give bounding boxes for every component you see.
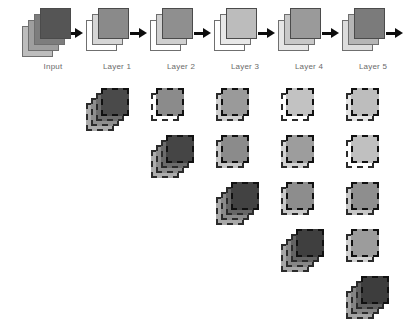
flow-node-layer5: Layer 5 bbox=[342, 8, 404, 80]
flow-node-label-layer5: Layer 5 bbox=[342, 62, 404, 71]
feature-map-card-front bbox=[361, 276, 389, 304]
feature-map-stack-c5-r4 bbox=[346, 229, 392, 275]
feature-map-stack-c4-r1 bbox=[281, 88, 327, 134]
flow-node-layer4: Layer 4 bbox=[278, 8, 340, 80]
flow-arrow-6 bbox=[386, 28, 403, 39]
arrow-head-icon bbox=[75, 28, 83, 38]
feature-map-stack-c2-r2 bbox=[151, 135, 197, 181]
feature-map-stack-c2-r1 bbox=[151, 88, 197, 134]
feature-map-stack-c5-r5 bbox=[346, 276, 392, 322]
feature-map-stack-c3-r1 bbox=[216, 88, 262, 134]
flow-node-label-layer4: Layer 4 bbox=[278, 62, 340, 71]
arrow-head-icon bbox=[267, 28, 275, 38]
layer-card-front bbox=[354, 8, 385, 39]
feature-map-card-front bbox=[286, 135, 314, 163]
network-layer-diagram: InputLayer 1Layer 2Layer 3Layer 4Layer 5 bbox=[0, 0, 412, 327]
feature-map-card-front bbox=[231, 182, 259, 210]
flow-node-label-layer2: Layer 2 bbox=[150, 62, 212, 71]
flow-node-input: Input bbox=[22, 8, 84, 80]
feature-map-stack-c5-r2 bbox=[346, 135, 392, 181]
feature-map-stack-c3-r3 bbox=[216, 182, 262, 228]
feature-map-stack-c5-r1 bbox=[346, 88, 392, 134]
arrow-head-icon bbox=[139, 28, 147, 38]
feature-map-stack-c4-r2 bbox=[281, 135, 327, 181]
flow-node-layer2: Layer 2 bbox=[150, 8, 212, 80]
flow-arrow-2 bbox=[130, 28, 147, 39]
feature-map-card-front bbox=[351, 88, 379, 116]
arrow-head-icon bbox=[203, 28, 211, 38]
layer-card-front bbox=[226, 8, 257, 39]
flow-node-label-input: Input bbox=[22, 62, 84, 71]
feature-map-card-front bbox=[286, 88, 314, 116]
flow-arrow-4 bbox=[258, 28, 275, 39]
feature-map-card-front bbox=[221, 88, 249, 116]
feature-map-card-front bbox=[296, 229, 324, 257]
flow-arrow-3 bbox=[194, 28, 211, 39]
feature-map-stack-c3-r2 bbox=[216, 135, 262, 181]
flow-arrow-5 bbox=[322, 28, 339, 39]
flow-node-label-layer1: Layer 1 bbox=[86, 62, 148, 71]
layer-card-front bbox=[40, 8, 71, 39]
feature-map-card-front bbox=[156, 88, 184, 116]
flow-node-layer1: Layer 1 bbox=[86, 8, 148, 80]
feature-map-stack-c1-r1 bbox=[86, 88, 132, 134]
flow-node-label-layer3: Layer 3 bbox=[214, 62, 276, 71]
feature-map-card-front bbox=[101, 88, 129, 116]
feature-map-card-front bbox=[351, 229, 379, 257]
feature-map-card-front bbox=[351, 135, 379, 163]
arrow-head-icon bbox=[395, 28, 403, 38]
feature-map-stack-c4-r3 bbox=[281, 182, 327, 228]
layer-card-front bbox=[162, 8, 193, 39]
arrow-head-icon bbox=[331, 28, 339, 38]
layer-card-front bbox=[98, 8, 129, 39]
feature-map-card-front bbox=[221, 135, 249, 163]
layer-card-front bbox=[290, 8, 321, 39]
feature-map-card-front bbox=[166, 135, 194, 163]
feature-map-card-front bbox=[286, 182, 314, 210]
feature-map-stack-c5-r3 bbox=[346, 182, 392, 228]
feature-map-card-front bbox=[351, 182, 379, 210]
flow-node-layer3: Layer 3 bbox=[214, 8, 276, 80]
layer-stack-input bbox=[22, 8, 78, 58]
feature-map-stack-c4-r4 bbox=[281, 229, 327, 275]
